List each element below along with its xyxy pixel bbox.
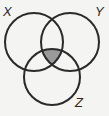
venn-svg <box>0 0 109 116</box>
venn-diagram: X Y Z <box>0 0 109 116</box>
circle-x <box>5 13 63 71</box>
label-y: Y <box>95 5 104 18</box>
label-x: X <box>3 5 12 18</box>
label-z: Z <box>75 96 83 109</box>
circle-y <box>41 13 99 71</box>
